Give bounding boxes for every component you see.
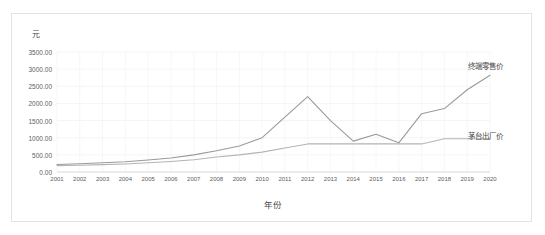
x-tick-label: 2012 (301, 176, 314, 182)
x-axis-title: 年份 (0, 198, 545, 210)
x-tick-label: 2001 (50, 176, 63, 182)
x-tick-label: 2019 (461, 176, 474, 182)
x-tick-label: 2016 (392, 176, 405, 182)
x-tick-label: 2006 (164, 176, 177, 182)
x-tick-label: 2020 (483, 176, 496, 182)
x-tick-label: 2014 (347, 176, 360, 182)
x-tick-label: 2018 (438, 176, 451, 182)
x-tick-label: 2010 (255, 176, 268, 182)
x-tick-label: 2013 (324, 176, 337, 182)
x-tick-label: 2005 (141, 176, 154, 182)
chart-figure: 元 0.00500.001000.001500.002000.002500.00… (0, 0, 545, 235)
series-label-retail: 终端零售价 (468, 60, 503, 71)
series-label-factory: 茅台出厂价 (468, 130, 503, 141)
x-tick-label: 2003 (96, 176, 109, 182)
x-tick-label: 2007 (187, 176, 200, 182)
x-tick-label: 2011 (278, 176, 291, 182)
x-tick-label: 2004 (119, 176, 132, 182)
x-tick-label: 2008 (210, 176, 223, 182)
x-tick-label: 2017 (415, 176, 428, 182)
x-tick-label: 2009 (233, 176, 246, 182)
x-tick-label: 2002 (73, 176, 86, 182)
x-tick-label: 2015 (369, 176, 382, 182)
